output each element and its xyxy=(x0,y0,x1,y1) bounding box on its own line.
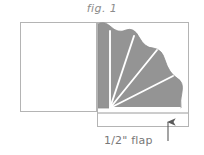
left-panel xyxy=(21,23,97,112)
flap-annotation: 1/2" flap xyxy=(104,130,194,150)
flap-label: 1/2" flap xyxy=(104,134,153,147)
figure-diagram: fig. 1 xyxy=(0,0,204,155)
